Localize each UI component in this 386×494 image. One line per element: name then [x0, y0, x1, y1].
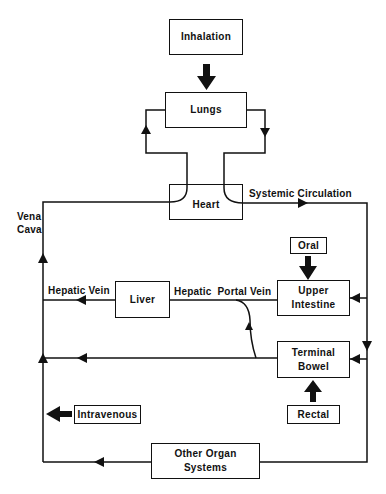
arrow-up-icon	[141, 125, 151, 134]
bold-arrow-down-icon	[299, 256, 317, 280]
node-label-line2: Bowel	[298, 360, 329, 374]
label-systemic-circulation: Systemic Circulation	[249, 187, 352, 200]
node-rectal: Rectal	[287, 405, 340, 424]
node-upper-intestine: Upper Intestine	[277, 280, 350, 316]
arrow-left-icon	[350, 293, 360, 303]
arrow-left-icon	[94, 457, 104, 467]
node-terminal-bowel: Terminal Bowel	[277, 341, 350, 378]
node-liver: Liver	[115, 281, 170, 318]
node-heart: Heart	[169, 184, 243, 220]
node-oral: Oral	[290, 237, 327, 254]
node-label-line1: Other Organ	[174, 447, 236, 461]
arrow-left-icon	[350, 354, 360, 364]
node-inhalation: Inhalation	[169, 19, 243, 55]
node-intravenous: Intravenous	[74, 405, 141, 424]
node-label-line1: Upper	[298, 284, 328, 298]
arrow-up-icon	[245, 322, 253, 330]
bold-arrow-left-icon	[46, 406, 72, 422]
node-other-organ-systems: Other Organ Systems	[151, 443, 260, 479]
node-label-line1: Terminal	[292, 346, 335, 360]
arrow-left-icon	[77, 353, 87, 363]
node-label: Lungs	[190, 103, 222, 117]
node-label: Rectal	[298, 408, 330, 422]
label-vena-cava-line1: Vena	[17, 210, 41, 223]
label-vena-cava-line2: Cava	[17, 223, 42, 236]
node-label: Oral	[298, 239, 319, 253]
node-label: Intravenous	[78, 408, 138, 422]
arrow-down-icon	[362, 341, 372, 351]
bold-arrow-up-icon	[304, 380, 322, 402]
node-label: Heart	[192, 198, 219, 212]
node-label-line2: Intestine	[292, 298, 336, 312]
node-lungs: Lungs	[165, 92, 247, 128]
node-label: Liver	[130, 293, 155, 307]
node-label: Inhalation	[181, 30, 231, 44]
label-hepatic-vein: Hepatic Vein	[48, 284, 110, 297]
label-hepatic-portal-vein: Hepatic Portal Vein	[174, 285, 271, 298]
node-label-line2: Systems	[184, 461, 227, 475]
bold-arrow-down-icon	[197, 64, 216, 90]
arrow-down-icon	[260, 128, 270, 137]
arrow-up-icon	[38, 253, 48, 263]
